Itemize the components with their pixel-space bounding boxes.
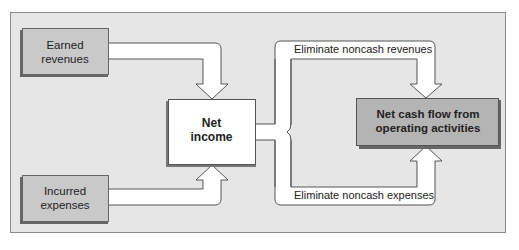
eliminate-noncash-expenses-label: Eliminate noncash expenses: [294, 189, 434, 201]
net-income-line2: income: [168, 130, 255, 144]
earned-revenues-line2: revenues: [22, 52, 108, 66]
incurred-expenses-line2: expenses: [22, 198, 108, 212]
earned-revenues-label: Earned revenues: [22, 38, 108, 66]
diagram-canvas: Earned revenues Incurred expenses Net in…: [0, 0, 519, 250]
incurred-expenses-line1: Incurred: [22, 184, 108, 198]
net-income-label: Net income: [168, 116, 255, 144]
earned-revenues-line1: Earned: [22, 38, 108, 52]
net-cash-flow-label: Net cash flow from operating activities: [357, 107, 499, 135]
eliminate-noncash-revenues-label: Eliminate noncash revenues: [294, 43, 432, 55]
net-cash-flow-line2: operating activities: [357, 121, 499, 135]
incurred-expenses-label: Incurred expenses: [22, 184, 108, 212]
net-income-line1: Net: [168, 116, 255, 130]
net-cash-flow-line1: Net cash flow from: [357, 107, 499, 121]
